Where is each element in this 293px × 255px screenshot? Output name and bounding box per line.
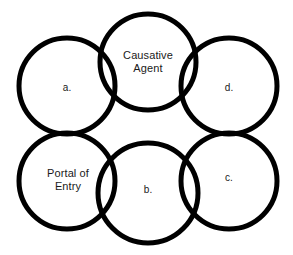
circle-causative-agent[interactable] (100, 14, 196, 110)
venn-circles-group (0, 0, 293, 255)
chain-of-infection-diagram: a. Causative Agent d. Portal of Entry b.… (0, 0, 293, 255)
